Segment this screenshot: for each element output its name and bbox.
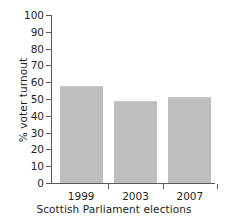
y-tick-label: 10 [31,160,44,172]
x-axis-line [51,183,215,184]
bar-2007 [168,97,211,183]
y-tick-label: 100 [24,9,44,21]
y-tick-label: 70 [31,59,44,71]
y-axis-line [51,15,52,184]
y-tick-label: 90 [31,26,44,38]
y-tick-mark [46,49,51,50]
y-tick-mark [46,82,51,83]
y-tick-label: 80 [31,43,44,55]
bar-1999 [60,86,103,183]
y-tick-mark [46,15,51,16]
bar-top-edge [114,101,157,102]
y-tick-label: 50 [31,93,44,105]
y-tick-mark [46,183,51,184]
x-axis-title: Scottish Parliament elections [0,203,228,215]
y-axis-title: % voter turnout [17,25,29,175]
y-tick-mark [46,99,51,100]
y-tick-label: 40 [31,110,44,122]
bar-2003 [114,101,157,183]
y-tick-label: 20 [31,143,44,155]
y-tick-mark [46,116,51,117]
x-tick-label-2007: 2007 [176,190,203,202]
y-tick-mark [46,32,51,33]
y-tick-mark [46,149,51,150]
y-tick-mark [46,166,51,167]
y-tick-label: 0 [37,177,44,189]
y-tick-mark [46,65,51,66]
bar-chart-figure: % voter turnout 100 90 80 70 60 50 [0,0,228,224]
x-tick-mark [163,184,164,189]
y-tick-label: 60 [31,76,44,88]
x-tick-mark [108,184,109,189]
x-tick-label-2003: 2003 [122,190,149,202]
bar-top-edge [60,86,103,87]
x-tick-mark [217,184,218,189]
y-tick-mark [46,133,51,134]
bar-top-edge [168,97,211,98]
plot-area: 100 90 80 70 60 50 40 30 [51,15,214,183]
y-tick-label: 30 [31,127,44,139]
x-tick-label-1999: 1999 [68,190,95,202]
